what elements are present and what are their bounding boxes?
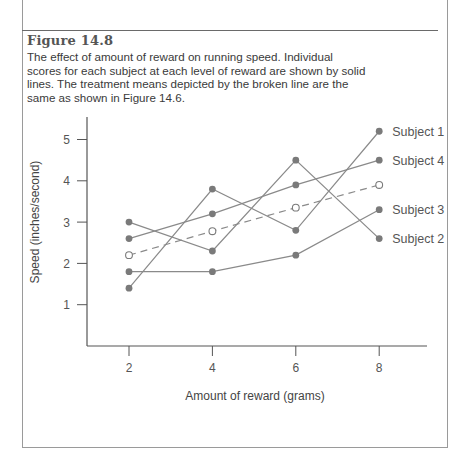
filled-marker xyxy=(292,182,299,189)
x-tick-label: 4 xyxy=(209,361,216,375)
chart-series xyxy=(126,128,383,292)
y-axis-label: Speed (inches/second) xyxy=(28,161,42,284)
filled-marker xyxy=(376,206,383,213)
line-chart: 123452468 Subject 1Subject 2Subject 3Sub… xyxy=(0,0,467,466)
series-line xyxy=(129,160,379,251)
filled-marker xyxy=(126,268,133,275)
filled-marker xyxy=(209,186,216,193)
open-marker xyxy=(376,182,383,189)
open-marker xyxy=(209,228,216,235)
y-tick-label: 1 xyxy=(63,298,70,312)
filled-marker xyxy=(209,268,216,275)
filled-marker xyxy=(376,235,383,242)
y-tick-label: 2 xyxy=(63,257,70,271)
series-subject-1 xyxy=(126,128,383,292)
x-tick-label: 2 xyxy=(126,361,133,375)
y-tick-label: 5 xyxy=(63,133,70,147)
open-marker xyxy=(126,252,133,259)
series-label: Subject 2 xyxy=(392,232,444,246)
filled-marker xyxy=(126,219,133,226)
filled-marker xyxy=(126,285,133,292)
x-tick-label: 6 xyxy=(292,361,299,375)
filled-marker xyxy=(209,248,216,255)
series-line xyxy=(129,185,379,255)
y-tick-label: 3 xyxy=(63,216,70,230)
filled-marker xyxy=(209,210,216,217)
series-subject-2 xyxy=(126,157,383,255)
chart-legend: Subject 1Subject 2Subject 3Subject 4 xyxy=(392,125,444,246)
filled-marker xyxy=(292,252,299,259)
filled-marker xyxy=(126,235,133,242)
series-label: Subject 3 xyxy=(392,203,444,217)
filled-marker xyxy=(292,227,299,234)
filled-marker xyxy=(376,128,383,135)
series-label: Subject 1 xyxy=(392,125,444,139)
x-axis-label: Amount of reward (grams) xyxy=(185,389,324,403)
filled-marker xyxy=(376,157,383,164)
filled-marker xyxy=(292,157,299,164)
series-line xyxy=(129,210,379,272)
series-line xyxy=(129,131,379,288)
series-label: Subject 4 xyxy=(392,154,444,168)
x-tick-label: 8 xyxy=(376,361,383,375)
chart-axes: 123452468 xyxy=(63,117,427,375)
open-marker xyxy=(292,204,299,211)
y-tick-label: 4 xyxy=(63,174,70,188)
series-line xyxy=(129,160,379,238)
series-subject-3 xyxy=(126,206,383,275)
